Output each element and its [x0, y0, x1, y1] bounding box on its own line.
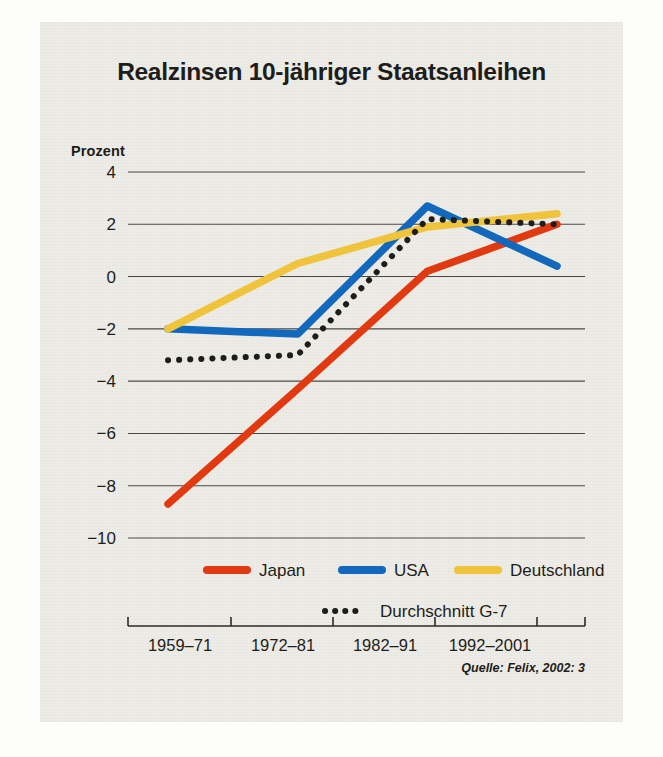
- chart-plot: 420−2−4−6−8−10 1959–711972–811982–911992…: [40, 22, 623, 722]
- legend-usa-label: USA: [394, 561, 430, 580]
- x-category-label: 1992–2001: [449, 636, 532, 654]
- y-tick-labels: 420−2−4−6−8−10: [87, 163, 116, 548]
- y-tick-label: −10: [87, 529, 116, 548]
- y-tick-label: −8: [97, 477, 116, 496]
- source-caption: Quelle: Felix, 2002: 3: [461, 661, 585, 675]
- legend-japan-label: Japan: [259, 561, 305, 580]
- y-tick-label: 2: [107, 215, 116, 234]
- x-category-label: 1972–81: [251, 636, 315, 654]
- legend-g7-label: Durchschnitt G-7: [380, 602, 508, 621]
- x-axis: [128, 617, 585, 626]
- y-tick-label: −6: [97, 424, 116, 443]
- x-category-label: 1982–91: [353, 636, 417, 654]
- y-tick-label: −2: [97, 320, 116, 339]
- y-tick-label: 0: [107, 268, 116, 287]
- chart-legend: JapanUSADeutschlandDurchschnitt G-7: [207, 561, 605, 621]
- series-line-usa: [168, 206, 557, 334]
- figure-panel: Realzinsen 10-jähriger Staatsanleihen Pr…: [40, 22, 623, 722]
- y-tick-label: −4: [97, 372, 116, 391]
- data-series-group: [168, 206, 557, 504]
- legend-deutschland-label: Deutschland: [510, 561, 605, 580]
- x-category-label: 1959–71: [148, 636, 212, 654]
- x-category-labels: 1959–711972–811982–911992–2001: [148, 636, 531, 654]
- y-tick-label: 4: [107, 163, 116, 182]
